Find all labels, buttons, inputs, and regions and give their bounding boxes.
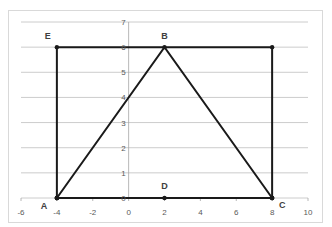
y-tick-label: 7 [121,18,126,27]
plot-area: 01234567-6-4-20246810 ABCDE [0,0,332,227]
x-tick-label: 2 [162,208,167,217]
x-tick-label: 4 [198,208,203,217]
y-tick-label: 4 [121,93,126,102]
point-label-e: E [45,31,51,41]
data-point [270,45,274,49]
x-tick-label: -2 [89,208,97,217]
x-tick-label: 10 [304,208,313,217]
x-tick-label: 8 [270,208,275,217]
point-labels: ABCDE [41,31,286,211]
point-label-d: D [161,181,168,191]
data-point [270,196,274,200]
data-point [55,196,59,200]
point-label-a: A [41,201,48,211]
x-tick-label: -6 [17,208,25,217]
y-tick-label: 3 [121,119,126,128]
point-label-c: C [279,200,286,210]
point-label-b: B [161,31,168,41]
x-tick-label: 6 [234,208,239,217]
data-point [162,196,166,200]
x-tick-label: 0 [126,208,131,217]
y-tick-label: 6 [121,43,126,52]
y-tick-label: 5 [121,68,126,77]
data-point [162,45,166,49]
x-tick-label: -4 [53,208,61,217]
y-tick-label: 2 [121,144,126,153]
data-point [55,45,59,49]
y-tick-label: 0 [121,194,126,203]
y-tick-label: 1 [121,169,126,178]
